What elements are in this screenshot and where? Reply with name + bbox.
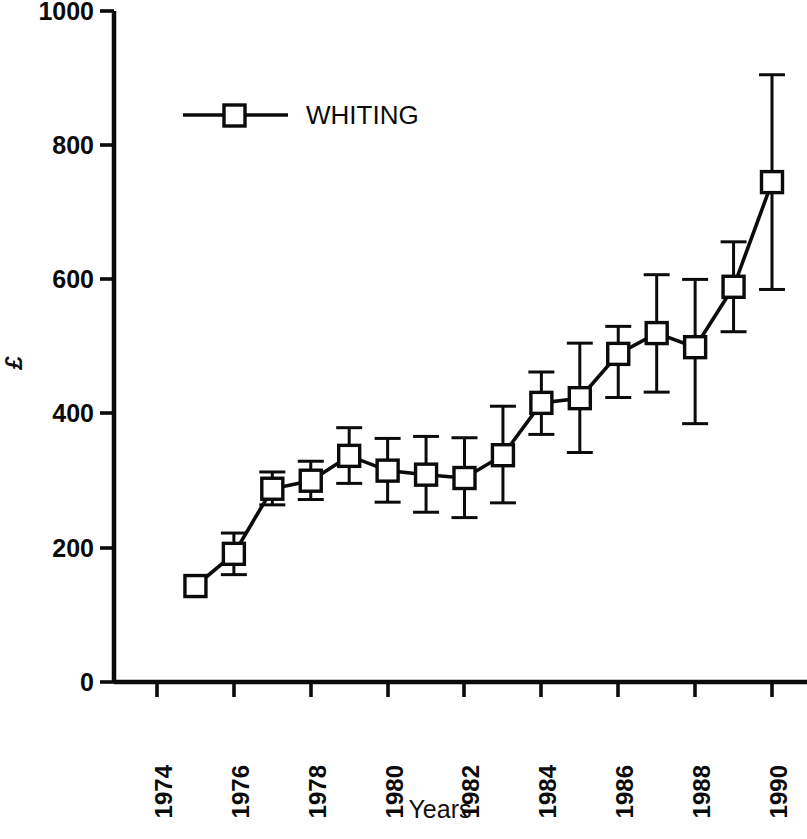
y-tick-label: 200 (52, 534, 94, 562)
y-tick-label: 0 (80, 668, 94, 696)
legend-label-whiting: WHITING (306, 100, 419, 130)
data-point-marker (377, 460, 398, 481)
data-markers-group (185, 172, 783, 597)
x-tick-label: 1986 (611, 765, 638, 818)
data-point-marker (608, 343, 629, 364)
error-bars-group (221, 75, 785, 575)
data-point-marker (300, 470, 321, 491)
x-axis-title: Years (408, 795, 471, 823)
x-tick-label: 1988 (688, 765, 715, 818)
data-point-marker (762, 172, 783, 193)
y-axis-title: £ (1, 355, 27, 370)
line-chart-svg: 1000 800 600 400 200 0 1974 1976 1978 19… (0, 0, 807, 839)
data-point-marker (723, 276, 744, 297)
data-point-marker (416, 464, 437, 485)
data-point-marker (454, 468, 475, 489)
data-point-marker (223, 543, 244, 564)
chart-figure: 1000 800 600 400 200 0 1974 1976 1978 19… (0, 0, 807, 839)
data-point-marker (339, 445, 360, 466)
data-point-marker (531, 392, 552, 413)
data-point-marker (569, 388, 590, 409)
x-tick-label: 1980 (381, 765, 408, 818)
data-point-marker (685, 337, 706, 358)
y-tick-label: 400 (52, 399, 94, 427)
y-tick-label: 800 (52, 131, 94, 159)
series-line-whiting (195, 182, 772, 586)
data-point-marker (262, 478, 283, 499)
data-point-marker (646, 323, 667, 344)
y-tick-label: 1000 (38, 0, 94, 25)
legend: WHITING (183, 100, 419, 130)
legend-open-square-icon (224, 105, 245, 126)
x-tick-label: 1984 (534, 764, 561, 818)
data-point-marker (492, 445, 513, 466)
y-tick-label: 600 (52, 265, 94, 293)
x-tick-label: 1974 (150, 764, 177, 818)
x-tick-label: 1990 (765, 765, 792, 818)
data-point-marker (185, 576, 206, 597)
x-tick-label: 1976 (227, 765, 254, 818)
x-tick-label: 1978 (304, 765, 331, 818)
y-axis-tick-labels: 1000 800 600 400 200 0 (38, 0, 94, 696)
